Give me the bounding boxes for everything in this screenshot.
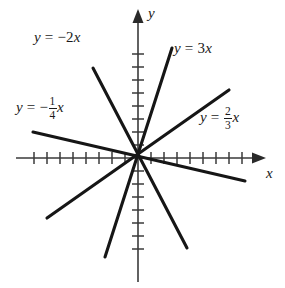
- label-y-equals-neg-2x: y = −2x: [34, 30, 81, 45]
- label-3x-coef: 3: [197, 40, 205, 56]
- x-axis-arrowhead: [252, 153, 266, 164]
- fraction-numerator: 1: [49, 96, 57, 108]
- label-negquarter-minus: −: [39, 99, 48, 115]
- fraction-numerator: 2: [224, 106, 232, 118]
- fraction-two-thirds: 23: [224, 106, 232, 131]
- fraction-denominator: 3: [224, 120, 232, 132]
- label-3x-y: y: [174, 40, 181, 56]
- fraction-one-quarter: 14: [49, 96, 57, 121]
- label-negquarter-y: y: [16, 99, 23, 115]
- label-3x-var: x: [205, 40, 212, 56]
- label-neg2x-y: y: [34, 29, 41, 45]
- label-neg2x-minus: −: [57, 29, 66, 45]
- fraction-denominator: 4: [49, 110, 57, 122]
- label-neg2x-var: x: [74, 29, 81, 45]
- label-y-equals-neg-quarter-x: y = −14x: [16, 96, 64, 121]
- y-axis-arrowhead: [133, 9, 144, 23]
- x-axis-label: x: [266, 166, 273, 181]
- line-y-equals-neg-quarter-x: [33, 132, 245, 181]
- graph-figure: y = −2x y = 3x y = −14x y = 23x x y: [0, 0, 285, 288]
- axis-arrowheads: [133, 9, 267, 164]
- label-y-equals-two-thirds-x: y = 23x: [200, 106, 239, 131]
- label-negquarter-var: x: [57, 99, 64, 115]
- label-y-equals-3x: y = 3x: [174, 41, 212, 56]
- axes-group: [16, 22, 253, 282]
- label-neg2x-coef: 2: [66, 29, 74, 45]
- y-axis-label: y: [148, 6, 155, 21]
- label-twothirds-var: x: [232, 109, 239, 125]
- label-twothirds-y: y: [200, 109, 207, 125]
